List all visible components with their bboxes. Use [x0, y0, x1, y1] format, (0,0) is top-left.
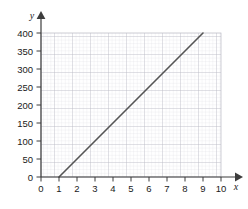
x-tick-label-2: 2: [74, 183, 79, 194]
y-tick-label-250: 250: [17, 82, 33, 93]
y-tick-label-100: 100: [17, 136, 33, 147]
x-tick-label-10: 10: [216, 183, 227, 194]
line-chart: 0 1 2 3 4 5 6 7 8 9 10 x 0 50: [0, 0, 248, 209]
y-tick-label-50: 50: [22, 154, 33, 165]
x-axis-label: x: [233, 181, 239, 192]
x-tick-label-9: 9: [200, 183, 205, 194]
y-tick-label-150: 150: [17, 118, 33, 129]
x-tick-label-8: 8: [182, 183, 187, 194]
x-tick-label-3: 3: [92, 183, 97, 194]
y-axis-label: y: [29, 10, 35, 21]
x-tick-label-0: 0: [38, 183, 43, 194]
y-tick-label-200: 200: [17, 100, 33, 111]
x-tick-label-1: 1: [56, 183, 61, 194]
y-tick-label-400: 400: [17, 28, 33, 39]
x-tick-label-4: 4: [110, 183, 115, 194]
x-tick-label-5: 5: [128, 183, 133, 194]
y-tick-label-350: 350: [17, 46, 33, 57]
x-tick-label-7: 7: [164, 183, 169, 194]
x-tick-label-6: 6: [146, 183, 151, 194]
y-tick-label-300: 300: [17, 64, 33, 75]
y-tick-label-0: 0: [28, 172, 33, 183]
chart-canvas: 0 1 2 3 4 5 6 7 8 9 10 x 0 50: [0, 0, 248, 209]
